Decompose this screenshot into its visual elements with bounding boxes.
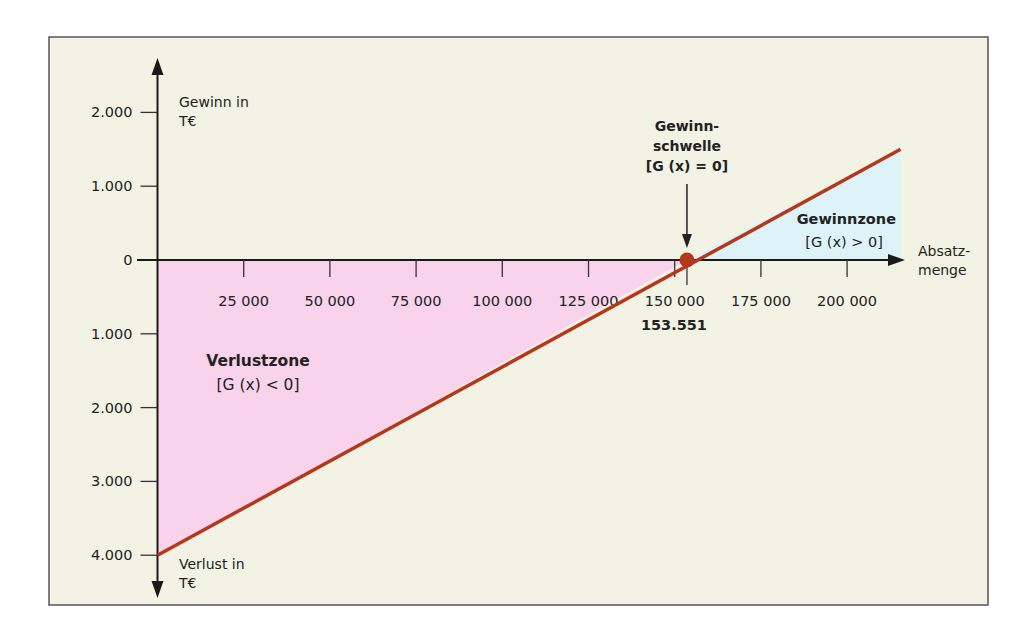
y-tick-label: 2.000 <box>91 104 133 120</box>
x-tick-label: 150 000 <box>645 293 705 309</box>
x-tick-label: 175 000 <box>731 293 791 309</box>
loss-zone-formula: [G (x) < 0] <box>216 376 299 394</box>
x-tick-label: 50 000 <box>305 293 356 309</box>
y-tick-label: 1.000 <box>91 178 133 194</box>
y-tick-label: 1.000 <box>91 326 133 342</box>
x-tick-label: 200 000 <box>817 293 877 309</box>
breakeven-value-label: 153.551 <box>641 317 707 333</box>
break-even-chart: 25 00050 00075 000100 000125 000150 0001… <box>0 0 1031 633</box>
y-tick-label: 3.000 <box>91 473 133 489</box>
y-tick-label: 2.000 <box>91 400 133 416</box>
x-tick-label: 75 000 <box>391 293 442 309</box>
loss-zone-title: Verlustzone <box>206 352 310 370</box>
x-tick-label: 25 000 <box>218 293 269 309</box>
profit-zone-title: Gewinnzone <box>797 211 896 227</box>
y-tick-label: 0 <box>123 252 132 268</box>
profit-zone-formula: [G (x) > 0] <box>805 234 883 250</box>
x-tick-label: 100 000 <box>472 293 532 309</box>
breakeven-annotation: Gewinn-schwelle[G (x) = 0] <box>646 118 728 174</box>
breakeven-point <box>679 253 694 268</box>
y-tick-label: 4.000 <box>91 547 133 563</box>
